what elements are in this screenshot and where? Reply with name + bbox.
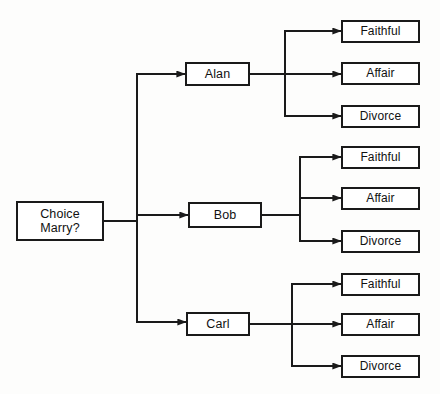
node-choice-alan[interactable]: Alan: [185, 62, 250, 86]
node-choice-alan-label: Alan: [205, 67, 230, 81]
node-outcome-label: Affair: [366, 192, 394, 206]
node-outcome-bob-faithful[interactable]: Faithful: [341, 146, 420, 169]
node-choice-carl[interactable]: Carl: [186, 312, 250, 336]
node-outcome-alan-faithful[interactable]: Faithful: [341, 20, 420, 43]
node-outcome-carl-affair[interactable]: Affair: [341, 313, 420, 336]
node-choice-bob[interactable]: Bob: [188, 202, 262, 228]
node-outcome-label: Affair: [366, 318, 394, 332]
node-choice-carl-label: Carl: [206, 317, 229, 331]
node-root-choice[interactable]: Choice Marry?: [16, 201, 104, 241]
node-outcome-carl-faithful[interactable]: Faithful: [341, 273, 420, 296]
node-root-line1: Choice: [40, 207, 80, 221]
node-choice-bob-label: Bob: [214, 208, 237, 222]
node-outcome-carl-divorce[interactable]: Divorce: [341, 355, 420, 378]
node-outcome-label: Divorce: [360, 110, 401, 124]
node-outcome-label: Faithful: [360, 278, 400, 292]
decision-tree-diagram: Choice Marry? Alan Bob Carl Faithful Aff…: [0, 0, 440, 394]
node-outcome-label: Faithful: [360, 151, 400, 165]
node-root-line2: Marry?: [40, 221, 80, 235]
node-outcome-bob-divorce[interactable]: Divorce: [341, 230, 420, 253]
node-outcome-label: Divorce: [360, 235, 401, 249]
node-outcome-label: Affair: [366, 67, 394, 81]
node-outcome-label: Divorce: [360, 360, 401, 374]
node-outcome-label: Faithful: [360, 25, 400, 39]
node-outcome-alan-divorce[interactable]: Divorce: [341, 105, 420, 128]
node-outcome-bob-affair[interactable]: Affair: [341, 187, 420, 210]
node-outcome-alan-affair[interactable]: Affair: [341, 62, 420, 85]
